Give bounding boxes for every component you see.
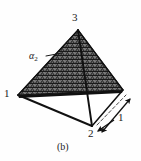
- dimension-label: 1: [118, 112, 124, 123]
- alpha-subscript: 2: [34, 55, 38, 63]
- vertex-label-2: 2: [88, 128, 94, 139]
- figure-container: 3 1 2 α2 1 (b): [0, 0, 141, 161]
- vertex-label-3: 3: [72, 12, 78, 23]
- vertex-label-1: 1: [4, 88, 10, 99]
- figure-caption: (b): [57, 142, 69, 152]
- vertex-2-pointer-arrow: [98, 120, 114, 131]
- alpha2-face-label: α2: [29, 51, 38, 63]
- tetrahedron-diagram-svg: [0, 0, 141, 161]
